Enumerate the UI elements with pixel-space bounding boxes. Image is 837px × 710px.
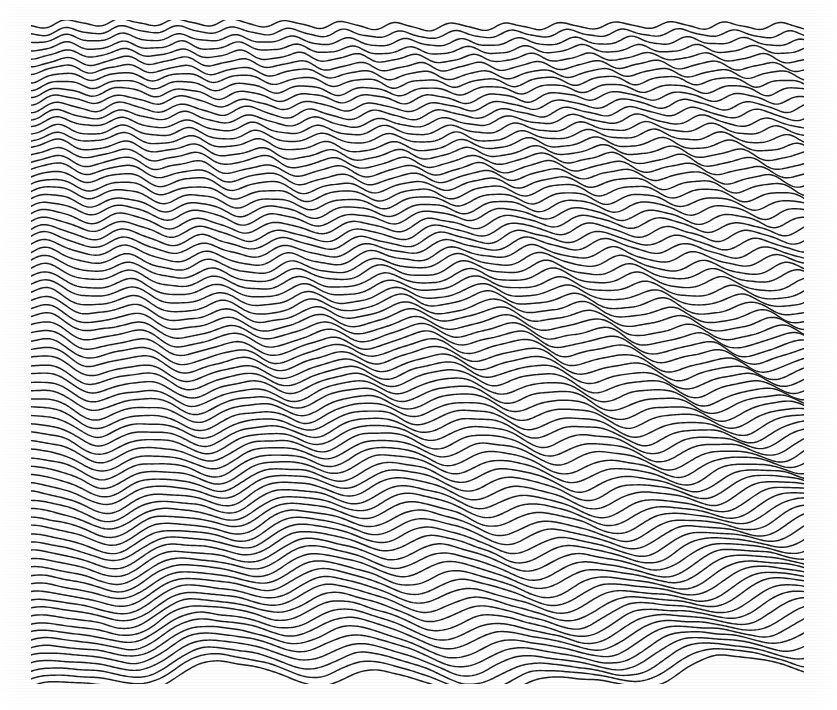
figure-page: Stacked waterfall ridge plot of oscillat… (0, 0, 837, 710)
ridge-plot-canvas: Stacked waterfall ridge plot of oscillat… (0, 0, 837, 710)
ridge-plot-figure: Stacked waterfall ridge plot of oscillat… (0, 0, 837, 710)
